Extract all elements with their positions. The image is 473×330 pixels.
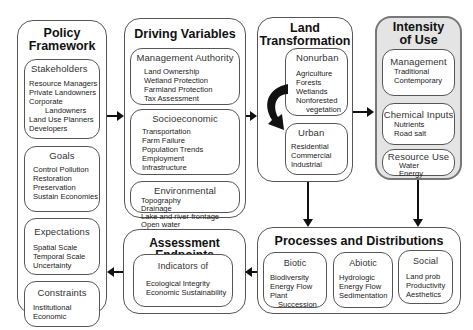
urban-item: Industrial <box>291 160 347 169</box>
biotic-item: Plant <box>270 291 326 300</box>
processes-distributions-title: Processes and Distributions <box>258 235 460 248</box>
constraint-item: Economic <box>33 312 99 321</box>
stakeholder-item: Private Landowners <box>29 88 99 97</box>
biotic-item: Biodiversity <box>270 273 326 282</box>
management-authority-title: Management Authority <box>131 52 239 63</box>
biotic-box: Biotic Biodiversity Energy Flow Plant Su… <box>263 252 327 308</box>
management-item: Traditional <box>394 67 454 76</box>
management-item: Wetland Protection <box>144 76 239 85</box>
stakeholder-item: Landowners <box>29 106 99 115</box>
title-line: Policy <box>18 27 106 40</box>
indicators-box: Indicators of Ecological Integrity Econo… <box>133 254 233 307</box>
management-authority-box: Management Authority Land Ownership Wetl… <box>130 48 240 105</box>
driving-variables-box: Driving Variables Management Authority L… <box>124 18 246 218</box>
stakeholder-item: Land Use Planners <box>29 115 99 124</box>
arrow-land-to-intensity <box>353 111 368 113</box>
abiotic-item: Hydrologic <box>339 273 392 282</box>
stakeholder-item: Developers <box>29 124 99 133</box>
expectations-box: Expectations Spatial Scale Temporal Scal… <box>24 218 100 275</box>
arrowhead-down-icon <box>303 219 313 227</box>
title-line: Transformation <box>258 35 352 48</box>
indicator-item: Economic Sustainability <box>146 288 232 297</box>
expectation-item: Spatial Scale <box>33 243 99 252</box>
arrow-land-to-processes <box>307 182 309 220</box>
driving-variables-title: Driving Variables <box>125 28 245 41</box>
indicators-title: Indicators of <box>134 261 232 271</box>
goal-item: Preservation <box>33 183 99 192</box>
environmental-item: Open water <box>141 221 239 229</box>
expectations-title: Expectations <box>25 226 99 237</box>
abiotic-title: Abiotic <box>334 258 392 268</box>
arrowhead-right-icon <box>367 107 374 117</box>
constraints-box: Constraints Institutional Economic <box>24 281 100 327</box>
constraint-item: Institutional <box>33 303 99 312</box>
socioeconomic-item: Transportation <box>142 127 239 136</box>
social-title: Social <box>399 256 452 266</box>
management-item: Farmland Protection <box>144 85 239 94</box>
intensity-of-use-title: Intensity of Use <box>377 21 460 46</box>
nonurban-item: Nonforested <box>296 96 347 105</box>
abiotic-item: Energy Flow <box>339 282 392 291</box>
title-line: Land <box>258 22 352 35</box>
social-item: Aesthetics <box>406 290 452 299</box>
arrowhead-left-icon <box>107 267 114 277</box>
urban-item: Residential <box>291 142 347 151</box>
title-line: Intensity <box>377 21 460 34</box>
management-title: Management <box>383 56 454 67</box>
constraints-title: Constraints <box>25 287 99 298</box>
policy-framework-title: Policy Framework <box>18 27 106 52</box>
management-item: Tax Assessment <box>144 94 239 103</box>
nonurban-item: Wetlands <box>296 87 347 96</box>
stakeholder-item: Corporate <box>29 97 99 106</box>
title-line: of Use <box>377 34 460 47</box>
social-box: Social Land prob Productivity Aesthetics <box>398 250 453 304</box>
biotic-item: Succession <box>270 300 326 309</box>
biotic-item: Energy Flow <box>270 282 326 291</box>
environmental-box: Environmental Topography Drainage Lake a… <box>130 181 240 213</box>
title-line: Framework <box>18 40 106 53</box>
goal-item: Control Pollution <box>33 165 99 174</box>
urban-item: Commercial <box>291 151 347 160</box>
arrow-intensity-to-processes <box>417 180 419 220</box>
processes-distributions-box: Processes and Distributions Biotic Biodi… <box>257 227 461 314</box>
arrowhead-left-icon <box>245 267 252 277</box>
land-transformation-title: Land Transformation <box>258 22 352 47</box>
management-item: Land Ownership <box>144 67 239 76</box>
stakeholder-item: Resource Managers <box>29 79 99 88</box>
indicator-item: Ecological Integrity <box>146 279 232 288</box>
management-box: Management Traditional Contemporary <box>382 49 455 96</box>
goal-item: Restoration <box>33 174 99 183</box>
stakeholders-title: Stakeholders <box>25 63 99 74</box>
goals-box: Goals Control Pollution Restoration Pres… <box>24 146 100 212</box>
arrowhead-right-icon <box>117 111 124 121</box>
expectation-item: Uncertainty <box>33 261 99 270</box>
policy-framework-box: Policy Framework Stakeholders Resource M… <box>17 20 107 314</box>
nonurban-title: Nonurban <box>286 52 347 63</box>
arrow-assessment-to-policy <box>113 271 123 273</box>
socioeconomic-title: Socioeconomic <box>131 113 239 124</box>
land-transformation-box: Land Transformation Nonurban Agriculture… <box>257 17 353 182</box>
socioeconomic-item: Infrastructure <box>142 163 239 172</box>
nonurban-item: Agriculture <box>296 69 347 78</box>
chemical-inputs-box: Chemical Inputs Nutrients Road salt <box>382 103 455 145</box>
arrowhead-down-icon <box>413 219 423 227</box>
expectation-item: Temporal Scale <box>33 252 99 261</box>
nonurban-box: Nonurban Agriculture Forests Wetlands No… <box>285 48 348 116</box>
nonurban-item: Forests <box>296 78 347 87</box>
stakeholders-box: Stakeholders Resource Managers Private L… <box>24 59 100 139</box>
socioeconomic-item: Farm Failure <box>142 136 239 145</box>
chemical-inputs-title: Chemical Inputs <box>383 109 454 120</box>
social-item: Land prob <box>406 272 452 281</box>
nonurban-item: vegetation <box>296 105 347 114</box>
curved-conversion-arrow-icon <box>262 82 290 134</box>
abiotic-item: Sedimentation <box>339 291 392 300</box>
goal-item: Sustain Economies <box>33 192 99 201</box>
arrowhead-right-icon <box>250 111 257 121</box>
abiotic-box: Abiotic Hydrologic Energy Flow Sedimenta… <box>333 252 393 308</box>
socioeconomic-item: Employment <box>142 154 239 163</box>
assessment-endpoints-box: Assessment Endpoints Indicators of Ecolo… <box>123 229 246 314</box>
socioeconomic-box: Socioeconomic Transportation Farm Failur… <box>130 109 240 175</box>
resource-use-box: Resource Use Water Energy <box>382 149 455 176</box>
biotic-title: Biotic <box>264 258 326 268</box>
chemical-item: Nutrients <box>394 120 454 129</box>
